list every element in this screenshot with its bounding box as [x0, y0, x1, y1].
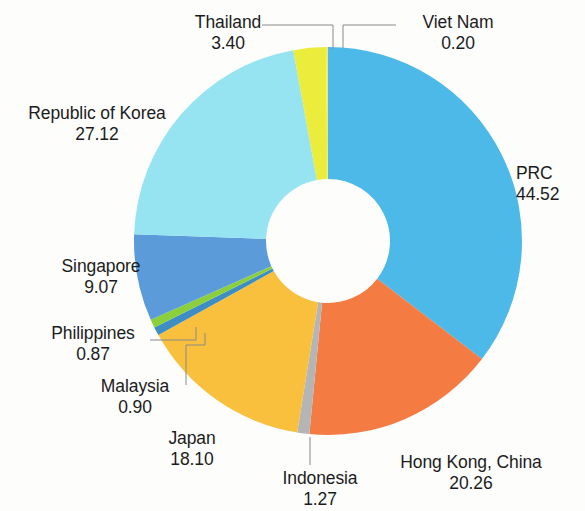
slice-label-indonesia-name: Indonesia — [262, 468, 378, 489]
slice-label-singapore-name: Singapore — [36, 256, 166, 277]
slice-label-japan-name: Japan — [146, 428, 238, 449]
donut-chart-figure: Thailand 3.40 Viet Nam 0.20 Republic of … — [0, 0, 585, 511]
slice-label-hong-kong-china-value: 20.26 — [378, 473, 564, 494]
slice-label-thailand-value: 3.40 — [170, 33, 286, 54]
slice-label-philippines-name: Philippines — [22, 323, 164, 344]
slice-label-republic-of-korea-value: 27.12 — [4, 124, 190, 145]
slice-label-malaysia-name: Malaysia — [76, 376, 194, 397]
slice-label-viet-nam-value: 0.20 — [398, 33, 518, 54]
slice-label-republic-of-korea-name: Republic of Korea — [4, 103, 190, 124]
slice-label-philippines: Philippines 0.87 — [22, 323, 164, 366]
slice-label-singapore: Singapore 9.07 — [36, 256, 166, 299]
slice-label-indonesia-value: 1.27 — [262, 489, 378, 510]
leader-line-viet-nam — [343, 25, 396, 48]
slice-label-japan-value: 18.10 — [146, 449, 238, 470]
slice-label-prc-value: 44.52 — [516, 184, 582, 205]
slice-label-hong-kong-china-name: Hong Kong, China — [378, 452, 564, 473]
slice-label-prc: PRC 44.52 — [516, 163, 582, 206]
slice-label-thailand-name: Thailand — [170, 12, 286, 33]
slice-label-philippines-value: 0.87 — [22, 344, 164, 365]
slice-label-republic-of-korea: Republic of Korea 27.12 — [4, 103, 190, 146]
slice-label-singapore-value: 9.07 — [36, 277, 166, 298]
slice-label-thailand: Thailand 3.40 — [170, 12, 286, 55]
slice-label-japan: Japan 18.10 — [146, 428, 238, 471]
slice-label-malaysia: Malaysia 0.90 — [76, 376, 194, 419]
slice-label-viet-nam: Viet Nam 0.20 — [398, 12, 518, 55]
slice-label-viet-nam-name: Viet Nam — [398, 12, 518, 33]
slice-label-prc-name: PRC — [516, 163, 582, 184]
slice-label-malaysia-value: 0.90 — [76, 397, 194, 418]
slice-label-indonesia: Indonesia 1.27 — [262, 468, 378, 511]
slice-label-hong-kong-china: Hong Kong, China 20.26 — [378, 452, 564, 495]
